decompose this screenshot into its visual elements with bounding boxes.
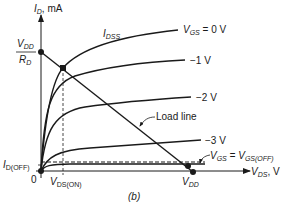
load-line-leader <box>140 117 155 126</box>
vgs-minus-3v-label: −3 V <box>205 135 226 146</box>
origin-point <box>38 168 44 174</box>
load-line-label: Load line <box>156 111 197 122</box>
vdd-over-rd-numerator: VDD <box>17 38 34 50</box>
curve-vgs-minus-2v <box>41 97 191 171</box>
q-point <box>60 65 66 71</box>
y-axis-label: ID, mA <box>34 3 63 15</box>
vdd-label: VDD <box>182 176 199 188</box>
curve-vgs-0v <box>41 30 178 171</box>
x-axis-label: VDS, V <box>251 166 280 178</box>
cutoff-point <box>185 163 191 169</box>
vgs-0v-label: VGS = 0 V <box>183 24 227 36</box>
jfet-characteristic-diagram: ID, mA VDS, V 0 VDD RD ID(OFF) VDS(ON) V… <box>0 0 285 203</box>
vgs-minus-1v-label: −1 V <box>190 55 211 66</box>
curve-vgs-off <box>41 164 205 171</box>
saturation-point <box>38 49 44 55</box>
figure-label: (b) <box>128 191 140 202</box>
idss-label: IDSS <box>103 28 121 40</box>
vgs-minus-2v-label: −2 V <box>196 92 217 103</box>
vgs-off-label: VGS = VGS(OFF) <box>210 150 274 163</box>
vds-on-label: VDS(ON) <box>50 176 82 189</box>
id-off-label: ID(OFF) <box>3 159 30 172</box>
vdd-point <box>190 169 196 175</box>
origin-label: 0 <box>31 174 37 185</box>
vdd-over-rd-denominator: RD <box>19 54 31 66</box>
vgs-off-leader <box>200 155 210 163</box>
curve-vgs-minus-3v <box>41 140 201 171</box>
